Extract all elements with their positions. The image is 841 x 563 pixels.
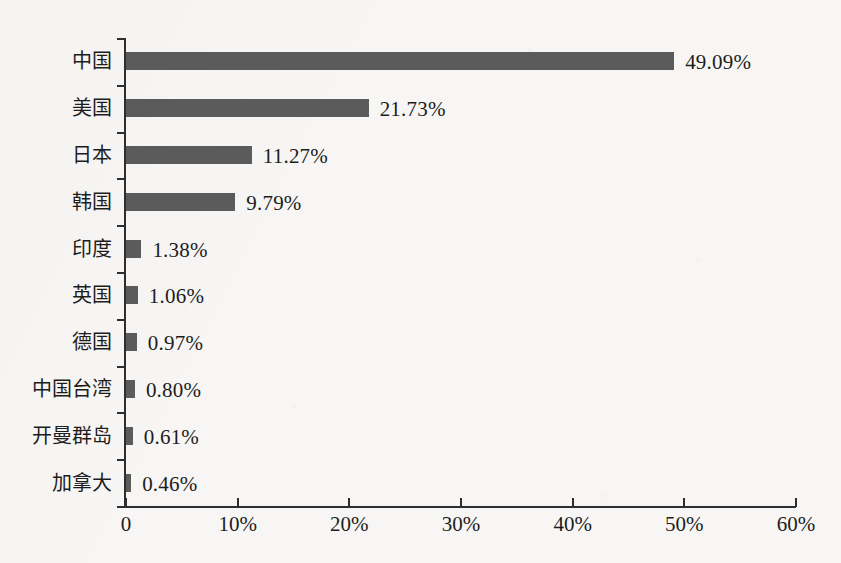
bar: [126, 286, 138, 304]
y-axis-tick: [117, 366, 125, 368]
bar-value-label: 0.61%: [144, 428, 199, 446]
x-axis-tick-label: 10%: [218, 512, 257, 537]
bar-value-label: 0.46%: [142, 475, 197, 493]
bar-value-label: 11.27%: [263, 147, 328, 165]
x-axis-tick: [683, 498, 685, 507]
bar-value-label: 9.79%: [246, 194, 301, 212]
y-axis-category-label: 德国: [0, 332, 112, 352]
x-axis-tick-label: 60%: [777, 512, 816, 537]
y-axis-tick: [117, 38, 125, 40]
x-axis-tick-label: 50%: [665, 512, 704, 537]
x-axis-tick: [795, 498, 797, 507]
bar: [126, 240, 141, 258]
x-axis-tick-label: 30%: [442, 512, 481, 537]
x-axis-tick: [348, 498, 350, 507]
bar: [126, 427, 133, 445]
y-axis-category-label: 中国台湾: [0, 379, 112, 399]
y-axis-tick: [117, 459, 125, 461]
y-axis-category-label: 开曼群岛: [0, 426, 112, 446]
horizontal-bar-chart: 010%20%30%40%50%60% 中国美国日本韩国印度英国德国中国台湾开曼…: [0, 0, 841, 563]
y-axis-tick: [117, 319, 125, 321]
y-axis-tick: [117, 272, 125, 274]
y-axis-tick: [117, 506, 125, 508]
bar-value-label: 0.97%: [148, 334, 203, 352]
bar: [126, 193, 235, 211]
bar: [126, 474, 131, 492]
y-axis-category-label: 美国: [0, 98, 112, 118]
x-axis-tick-label: 20%: [330, 512, 369, 537]
x-axis-tick-label: 40%: [553, 512, 592, 537]
bar: [126, 333, 137, 351]
x-axis-tick: [125, 498, 127, 507]
bar-value-label: 0.80%: [146, 381, 201, 399]
y-axis-category-label: 韩国: [0, 192, 112, 212]
x-axis-tick: [460, 498, 462, 507]
bar-value-label: 49.09%: [685, 53, 751, 71]
y-axis-tick: [117, 178, 125, 180]
y-axis-category-label: 中国: [0, 51, 112, 71]
y-axis-tick: [117, 225, 125, 227]
bar: [126, 380, 135, 398]
plot-area: 010%20%30%40%50%60% 中国美国日本韩国印度英国德国中国台湾开曼…: [0, 0, 841, 563]
bar: [126, 99, 369, 117]
y-axis-tick: [117, 412, 125, 414]
x-axis-tick-label: 0: [121, 512, 132, 537]
bar-value-label: 1.06%: [149, 287, 204, 305]
bar: [126, 52, 674, 70]
y-axis-category-label: 加拿大: [0, 473, 112, 493]
y-axis-category-label: 英国: [0, 285, 112, 305]
y-axis-tick: [117, 132, 125, 134]
x-axis-tick: [237, 498, 239, 507]
y-axis-tick: [117, 85, 125, 87]
y-axis-category-label: 印度: [0, 239, 112, 259]
bar-value-label: 21.73%: [380, 100, 446, 118]
bar: [126, 146, 252, 164]
bar-value-label: 1.38%: [152, 241, 207, 259]
y-axis-category-label: 日本: [0, 145, 112, 165]
x-axis-tick: [572, 498, 574, 507]
